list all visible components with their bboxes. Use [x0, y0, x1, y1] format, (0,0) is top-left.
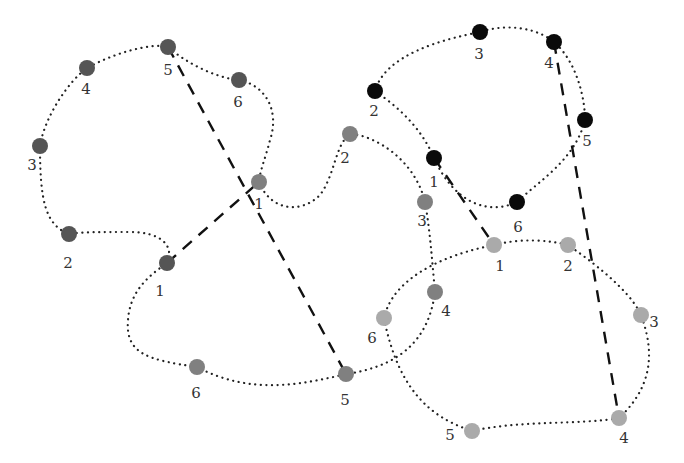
node-label: 3 [474, 45, 484, 63]
node-a-1 [159, 255, 175, 271]
node-label: 5 [445, 426, 455, 444]
network-diagram: 123456123456123456123456 [0, 0, 684, 463]
node-b-1 [251, 174, 267, 190]
node-c-3 [472, 24, 488, 40]
node-label: 6 [233, 93, 243, 111]
node-label: 1 [429, 173, 439, 191]
node-d-1 [486, 237, 502, 253]
node-label: 3 [27, 156, 37, 174]
node-label: 2 [563, 257, 573, 275]
node-b-2 [342, 126, 358, 142]
node-label: 5 [340, 391, 350, 409]
node-label: 4 [544, 54, 554, 72]
node-label: 5 [582, 132, 592, 150]
node-c-4 [546, 34, 562, 50]
node-label: 4 [81, 80, 91, 98]
link-c1-d1 [434, 158, 494, 245]
nodes [32, 24, 649, 439]
node-a-5 [160, 39, 176, 55]
node-label: 3 [417, 212, 427, 230]
node-label: 2 [369, 102, 379, 120]
node-label: 2 [63, 254, 73, 272]
node-a-3 [32, 138, 48, 154]
node-c-2 [367, 83, 383, 99]
node-label: 4 [619, 429, 629, 447]
node-a-6 [231, 72, 247, 88]
node-a-2 [61, 226, 77, 242]
node-b-4 [427, 284, 443, 300]
node-label: 2 [340, 149, 350, 167]
node-d-6 [376, 310, 392, 326]
node-label: 6 [367, 329, 377, 347]
link-c4-d4 [554, 42, 619, 418]
node-label: 6 [191, 384, 201, 402]
node-c-5 [577, 112, 593, 128]
node-label: 6 [513, 218, 523, 236]
node-label: 1 [254, 195, 264, 213]
node-c-1 [426, 150, 442, 166]
node-label: 4 [441, 302, 451, 320]
node-label: 5 [163, 61, 173, 79]
node-d-4 [611, 410, 627, 426]
node-label: 1 [495, 257, 505, 275]
node-d-5 [464, 423, 480, 439]
loop-d [384, 240, 649, 431]
node-b-6 [189, 359, 205, 375]
node-b-3 [417, 194, 433, 210]
node-label: 1 [155, 282, 165, 300]
node-label: 3 [649, 313, 659, 331]
node-b-5 [338, 366, 354, 382]
node-d-2 [560, 237, 576, 253]
node-a-4 [79, 60, 95, 76]
node-c-6 [509, 194, 525, 210]
node-d-3 [633, 307, 649, 323]
link-a1-b1 [167, 182, 259, 263]
